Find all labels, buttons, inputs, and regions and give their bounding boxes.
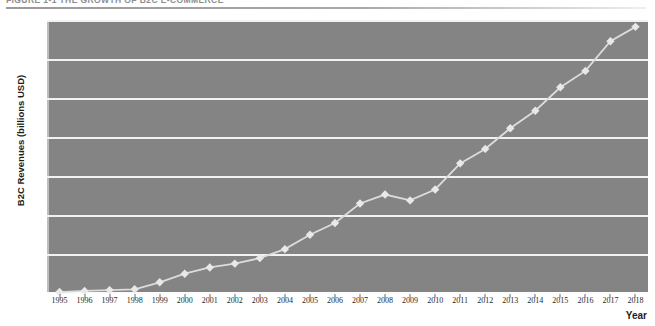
data-point-marker: [206, 263, 214, 271]
x-axis-tick-label: 2016: [577, 296, 593, 305]
figure-caption-strip: FIGURE 1-1 THE GROWTH OF B2C E-COMMERCE: [0, 0, 655, 9]
x-axis-tick-label: 2003: [252, 296, 268, 305]
plot-area: [47, 21, 648, 294]
x-axis-tick-label: 2007: [352, 296, 368, 305]
x-axis-tick-label: 2012: [477, 296, 493, 305]
data-point-marker: [130, 285, 138, 293]
figure-root: FIGURE 1-1 THE GROWTH OF B2C E-COMMERCE …: [0, 0, 655, 326]
x-axis-tick-labels: 1995199619971998199920002001200220032004…: [47, 296, 648, 310]
data-point-marker: [631, 23, 639, 31]
data-point-marker: [306, 231, 314, 239]
data-point-marker: [181, 270, 189, 278]
x-axis-tick-label: 2009: [402, 296, 418, 305]
x-axis-tick-label: 1998: [127, 296, 143, 305]
x-axis-tick-label: 2013: [502, 296, 518, 305]
y-axis-title: B2C Revenues (billions USD): [15, 31, 26, 251]
figure-caption: FIGURE 1-1 THE GROWTH OF B2C E-COMMERCE: [6, 0, 224, 5]
x-axis-tick-label: 2002: [227, 296, 243, 305]
x-axis-tick-label: 2015: [552, 296, 568, 305]
x-axis-tick-label: 1996: [77, 296, 93, 305]
data-point-marker: [155, 278, 163, 286]
x-axis-tick-label: 1999: [152, 296, 168, 305]
series-line: [60, 27, 636, 292]
data-point-marker: [231, 259, 239, 267]
plot-inner: [47, 21, 648, 294]
x-axis-tick-label: 2005: [302, 296, 318, 305]
x-axis-tick-label: 2014: [527, 296, 543, 305]
x-axis-tick-label: 2010: [427, 296, 443, 305]
x-axis-tick-label: 2006: [327, 296, 343, 305]
data-series: [47, 21, 648, 294]
data-point-marker: [281, 245, 289, 253]
x-axis-tick-label: 2018: [627, 296, 643, 305]
x-axis-title: Year: [626, 310, 647, 321]
caption-divider-rule: [6, 7, 646, 9]
x-axis-tick-label: 2011: [452, 296, 468, 305]
data-point-marker: [406, 196, 414, 204]
x-axis-tick-label: 2017: [602, 296, 618, 305]
x-axis-tick-label: 2008: [377, 296, 393, 305]
data-point-marker: [381, 190, 389, 198]
x-axis-tick-label: 2001: [202, 296, 218, 305]
x-axis-tick-label: 1997: [102, 296, 118, 305]
data-point-marker: [256, 254, 264, 262]
x-axis-tick-label: 1995: [52, 296, 68, 305]
x-axis-tick-label: 2004: [277, 296, 293, 305]
x-axis-tick-label: 2000: [177, 296, 193, 305]
